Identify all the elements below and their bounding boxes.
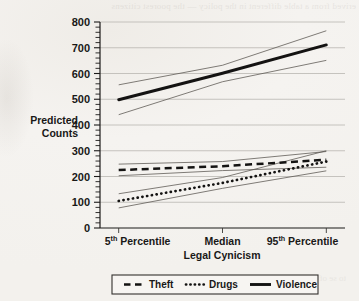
- x-axis-title: Legal Cynicism: [183, 249, 260, 261]
- x-axis-tick-labels: 5th PercentileMedian95th Percentile: [105, 234, 339, 248]
- series-line-drugs: [119, 162, 327, 201]
- y-tick-label: 0: [84, 222, 90, 234]
- series-line-violence: [119, 45, 327, 100]
- legend-label-theft: Theft: [149, 279, 174, 290]
- confidence-interval-bands: [119, 31, 327, 208]
- x-tick-label-95th-percentile: 95th Percentile: [267, 234, 339, 248]
- legend-label-drugs: Drugs: [209, 279, 238, 290]
- y-tick-label: 500: [72, 93, 90, 105]
- y-axis-title-line2: Counts: [42, 127, 78, 139]
- y-tick-label: 600: [72, 68, 90, 80]
- y-tick-label: 200: [72, 171, 90, 183]
- predicted-counts-line-chart: 0100200300400500600700800 5th Percentile…: [0, 0, 359, 301]
- y-tick-label: 700: [72, 42, 90, 54]
- ci-lower-violence: [119, 60, 327, 114]
- chart-svg: 0100200300400500600700800 5th Percentile…: [0, 0, 359, 301]
- x-axis: [100, 228, 345, 233]
- y-tick-label: 300: [72, 145, 90, 157]
- y-axis: [94, 22, 100, 228]
- x-tick-label-5th-percentile: 5th Percentile: [105, 234, 171, 248]
- legend-label-violence: Violence: [276, 279, 317, 290]
- x-tick-label-median: Median: [204, 235, 240, 247]
- y-tick-label: 100: [72, 196, 90, 208]
- ci-upper-violence: [119, 31, 327, 85]
- ci-lower-theft: [119, 167, 327, 176]
- y-tick-label: 800: [72, 16, 90, 28]
- ci-upper-drugs: [119, 151, 327, 194]
- chart-legend: TheftDrugsViolence: [112, 275, 318, 294]
- y-axis-title-line1: Predicted: [30, 114, 78, 126]
